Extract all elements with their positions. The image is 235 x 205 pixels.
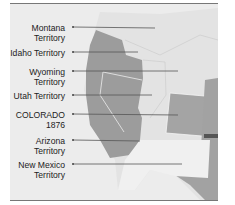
label-line: Territory: [18, 170, 65, 180]
dot-utah: [72, 94, 74, 96]
label-line: Montana: [32, 23, 65, 33]
label-utah: Utah Territory: [14, 91, 65, 101]
label-line: Wyoming: [29, 67, 65, 77]
label-colorado: COLORADO 1876: [16, 110, 65, 130]
label-line: 1876: [16, 120, 65, 130]
label-line: COLORADO: [16, 110, 65, 120]
dot-idaho: [72, 51, 74, 53]
label-line: Territory: [34, 146, 65, 156]
label-line: Arizona: [34, 136, 65, 146]
label-line: New Mexico: [18, 160, 65, 170]
dot-newmexico: [72, 163, 74, 165]
label-line: Territory: [29, 77, 65, 87]
label-line: Utah Territory: [14, 91, 65, 101]
dot-arizona: [72, 139, 74, 141]
label-line: Territory: [32, 33, 65, 43]
dark-marker: [204, 134, 218, 138]
label-idaho: Idaho Territory: [10, 48, 65, 58]
label-arizona: Arizona Territory: [34, 136, 65, 156]
label-line: Idaho Territory: [10, 48, 65, 58]
dot-wyoming: [72, 70, 74, 72]
label-wyoming: Wyoming Territory: [29, 67, 65, 87]
label-montana: Montana Territory: [32, 23, 65, 43]
dot-montana: [72, 26, 74, 28]
label-newmexico: New Mexico Territory: [18, 160, 65, 180]
dot-colorado: [72, 113, 74, 115]
